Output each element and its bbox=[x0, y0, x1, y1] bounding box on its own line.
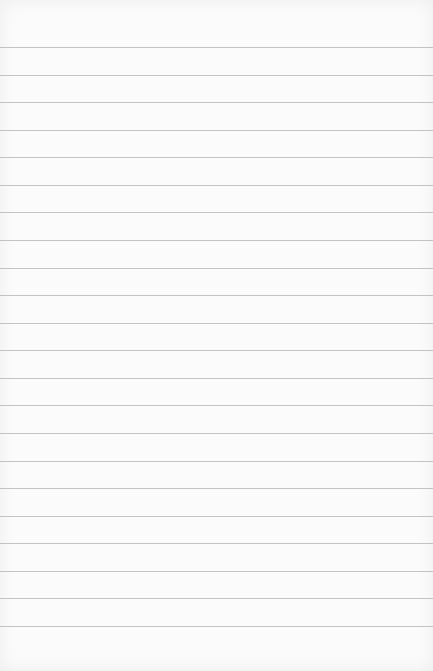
ruled-line bbox=[0, 378, 433, 379]
ruled-line bbox=[0, 47, 433, 48]
ruled-line bbox=[0, 488, 433, 489]
ruled-line bbox=[0, 75, 433, 76]
ruled-line bbox=[0, 571, 433, 572]
ruled-line bbox=[0, 543, 433, 544]
lined-paper bbox=[0, 0, 433, 671]
ruled-line bbox=[0, 405, 433, 406]
ruled-line bbox=[0, 212, 433, 213]
ruled-line bbox=[0, 323, 433, 324]
ruled-line bbox=[0, 461, 433, 462]
ruled-line bbox=[0, 516, 433, 517]
ruled-line bbox=[0, 433, 433, 434]
ruled-line bbox=[0, 598, 433, 599]
ruled-line bbox=[0, 240, 433, 241]
ruled-line bbox=[0, 268, 433, 269]
ruled-line bbox=[0, 626, 433, 627]
ruled-line bbox=[0, 350, 433, 351]
ruled-line bbox=[0, 130, 433, 131]
ruled-line bbox=[0, 102, 433, 103]
ruled-line bbox=[0, 185, 433, 186]
ruled-line bbox=[0, 295, 433, 296]
ruled-line bbox=[0, 157, 433, 158]
